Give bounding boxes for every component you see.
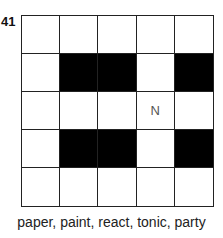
grid-cell[interactable] [60,92,98,130]
puzzle-number: 41 [1,14,15,29]
grid-cell[interactable] [22,54,60,92]
black-cell [60,130,98,168]
grid-cell[interactable] [137,54,175,92]
grid-cell[interactable] [137,130,175,168]
grid-cell[interactable] [60,16,98,54]
crossword-grid: N [21,15,214,207]
black-cell [98,130,136,168]
grid-cell[interactable] [175,168,213,206]
black-cell [175,54,213,92]
grid-cell[interactable] [175,16,213,54]
grid-cell[interactable] [98,92,136,130]
black-cell [175,130,213,168]
grid-cell[interactable] [175,92,213,130]
black-cell [60,54,98,92]
grid-cell[interactable] [22,92,60,130]
grid-cell[interactable] [60,168,98,206]
grid-cell[interactable] [137,168,175,206]
grid-cell[interactable] [22,130,60,168]
grid-cell[interactable] [98,168,136,206]
grid-cell[interactable] [137,16,175,54]
word-list: paper, paint, react, tonic, party [0,214,223,230]
grid-cell[interactable] [98,16,136,54]
grid-cell[interactable] [22,16,60,54]
grid-cell[interactable]: N [137,92,175,130]
grid-cell[interactable] [22,168,60,206]
black-cell [98,54,136,92]
